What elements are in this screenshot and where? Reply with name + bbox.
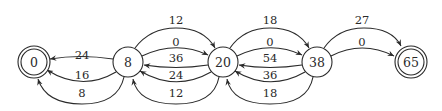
edge-38-to-20-54: 54 (239, 51, 302, 68)
node-label: 20 (215, 55, 231, 70)
edge-38-to-65-0: 0 (331, 35, 394, 56)
edge-38-to-20-36: 36 (235, 68, 305, 82)
node-65-accepting: 65 (395, 46, 427, 78)
edge-label: 12 (169, 13, 184, 27)
node-38: 38 (302, 47, 332, 77)
node-label: 65 (403, 55, 419, 70)
node-8: 8 (113, 47, 143, 77)
edge-label: 24 (169, 68, 184, 82)
edge-label: 0 (358, 35, 365, 49)
edge-8-to-0-16: 16 (47, 68, 116, 82)
edge-label: 0 (266, 35, 273, 49)
node-label: 8 (124, 55, 132, 70)
edge-label: 18 (263, 13, 278, 27)
state-diagram: 24 16 8 12 0 36 24 12 18 0 54 (0, 0, 442, 111)
edge-label: 27 (355, 13, 370, 27)
edge-label: 54 (263, 51, 278, 65)
node-label: 0 (30, 55, 38, 70)
edge-label: 18 (263, 86, 278, 100)
edge-label: 16 (75, 68, 90, 82)
edge-8-to-0-24: 24 (50, 48, 113, 62)
edge-label: 24 (75, 48, 90, 62)
node-0-accepting: 0 (18, 46, 50, 78)
edge-label: 36 (169, 51, 184, 65)
edge-label: 0 (172, 35, 179, 49)
node-20: 20 (208, 47, 238, 77)
edge-20-to-8-24: 24 (140, 68, 211, 82)
edge-label: 36 (263, 68, 278, 82)
edge-label: 12 (169, 86, 184, 100)
node-label: 38 (309, 55, 325, 70)
edge-20-to-8-36: 36 (144, 51, 208, 68)
edge-label: 8 (78, 86, 85, 100)
